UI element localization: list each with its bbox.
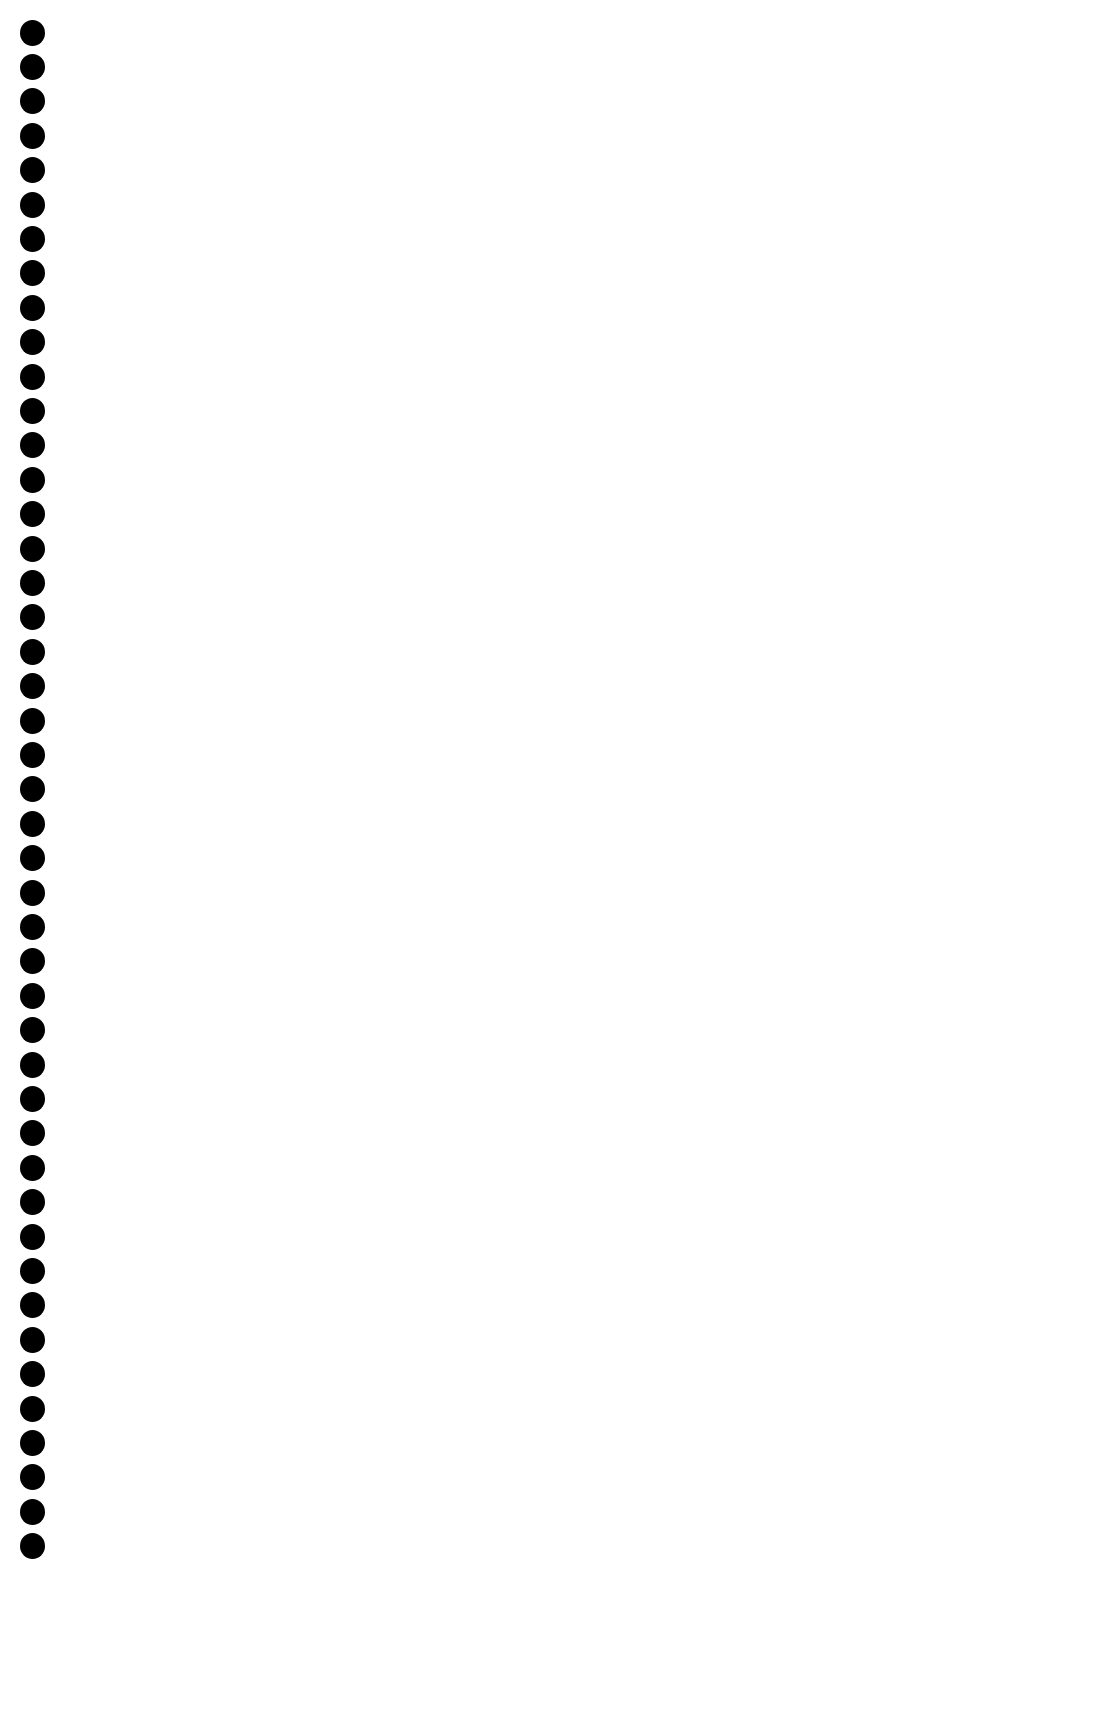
binding-hole-icon: [20, 260, 45, 286]
binding-hole-icon: [20, 1361, 45, 1387]
binding-hole-icon: [20, 329, 45, 355]
binding-hole-icon: [20, 811, 45, 837]
binding-hole-icon: [20, 1224, 45, 1250]
binding-hole-icon: [20, 708, 45, 734]
binding-hole-icon: [20, 1327, 45, 1353]
binding-hole-icon: [20, 1430, 45, 1456]
binding-hole-icon: [20, 123, 45, 149]
binding-hole-icon: [20, 742, 45, 768]
binding-hole-icon: [20, 467, 45, 493]
binding-hole-icon: [20, 1499, 45, 1525]
binding-hole-icon: [20, 226, 45, 252]
binding-hole-icon: [20, 845, 45, 871]
binding-hole-icon: [20, 914, 45, 940]
spiral-binding-holes: [0, 0, 70, 1718]
binding-hole-icon: [20, 604, 45, 630]
binding-hole-icon: [20, 880, 45, 906]
binding-hole-icon: [20, 1396, 45, 1422]
binding-hole-icon: [20, 364, 45, 390]
binding-hole-icon: [20, 1189, 45, 1215]
binding-hole-icon: [20, 501, 45, 527]
binding-hole-icon: [20, 1086, 45, 1112]
binding-hole-icon: [20, 948, 45, 974]
notebook-page: [0, 0, 1119, 1718]
binding-hole-icon: [20, 157, 45, 183]
binding-hole-icon: [20, 776, 45, 802]
binding-hole-icon: [20, 1258, 45, 1284]
binding-hole-icon: [20, 295, 45, 321]
binding-hole-icon: [20, 54, 45, 80]
binding-hole-icon: [20, 570, 45, 596]
binding-hole-icon: [20, 398, 45, 424]
binding-hole-icon: [20, 1464, 45, 1490]
binding-hole-icon: [20, 1292, 45, 1318]
binding-hole-icon: [20, 1052, 45, 1078]
binding-hole-icon: [20, 88, 45, 114]
binding-hole-icon: [20, 1120, 45, 1146]
binding-hole-icon: [20, 673, 45, 699]
binding-hole-icon: [20, 639, 45, 665]
binding-hole-icon: [20, 192, 45, 218]
binding-hole-icon: [20, 432, 45, 458]
binding-hole-icon: [20, 1533, 45, 1559]
binding-hole-icon: [20, 536, 45, 562]
binding-hole-icon: [20, 1155, 45, 1181]
binding-hole-icon: [20, 1017, 45, 1043]
blank-page-content: [70, 0, 1119, 1718]
binding-hole-icon: [20, 20, 45, 46]
binding-hole-icon: [20, 983, 45, 1009]
